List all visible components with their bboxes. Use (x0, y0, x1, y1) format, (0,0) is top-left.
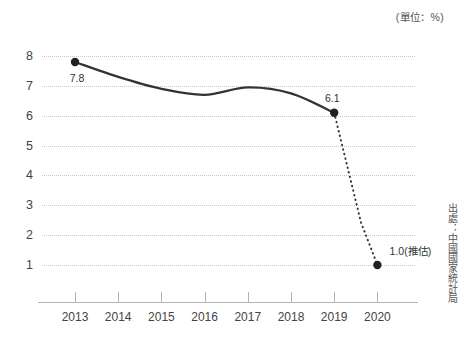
y-axis-tick-label: 2 (26, 228, 33, 242)
data-point-marker (71, 58, 79, 66)
plot-area: 87654321 7.86.11.0(推估) (42, 50, 415, 302)
x-axis-tick (377, 292, 378, 302)
x-axis-tick-label: 2015 (148, 310, 175, 324)
y-axis-tick-label: 5 (26, 139, 33, 153)
unit-caption: (單位：%) (396, 9, 444, 24)
x-axis-tick (334, 292, 335, 302)
y-axis-tick-label: 1 (26, 258, 33, 272)
x-axis-tick-label: 2020 (364, 310, 391, 324)
x-axis-tick-label: 2013 (62, 310, 89, 324)
x-axis-tick (291, 292, 292, 302)
y-axis-tick-label: 3 (26, 198, 33, 212)
x-axis-tick (205, 292, 206, 302)
series-layer (42, 50, 415, 302)
y-axis-tick-label: 8 (26, 49, 33, 63)
x-axis-tick (161, 292, 162, 302)
x-axis-tick-label: 2017 (234, 310, 261, 324)
series-projected-dotted-line (334, 113, 377, 265)
x-axis-tick-label: 2016 (191, 310, 218, 324)
source-note: 出處：中國國家統計局 (446, 203, 457, 303)
x-axis-line (38, 302, 418, 303)
data-point-marker (373, 261, 381, 269)
data-point-label: 1.0(推估) (390, 243, 432, 258)
x-axis-tick-label: 2014 (105, 310, 132, 324)
x-axis-tick-label: 2018 (278, 310, 305, 324)
x-axis-tick-label: 2019 (321, 310, 348, 324)
x-axis-tick (75, 292, 76, 302)
y-axis-tick-label: 6 (26, 109, 33, 123)
data-point-label: 6.1 (325, 92, 340, 104)
x-axis-tick (118, 292, 119, 302)
data-point-marker (330, 109, 338, 117)
gdp-growth-line-chart: (單位：%) 出處：中國國家統計局 87654321 7.86.11.0(推估)… (0, 0, 458, 347)
data-point-label: 7.8 (70, 72, 85, 84)
y-axis-tick-label: 4 (26, 168, 33, 182)
x-axis-tick (248, 292, 249, 302)
series-solid-line (75, 62, 334, 113)
y-axis-tick-label: 7 (26, 79, 33, 93)
